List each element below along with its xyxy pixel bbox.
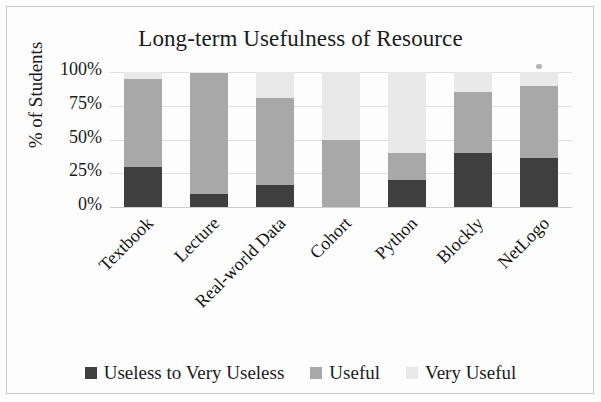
y-axis-tick-label: 100% <box>60 59 102 80</box>
legend-label: Useless to Very Useless <box>104 362 285 384</box>
bar-segment[interactable] <box>256 72 294 98</box>
bar-slot <box>308 72 374 207</box>
stacked-bar[interactable] <box>124 72 162 207</box>
y-axis-tick-label: 25% <box>69 161 102 182</box>
bar-segment[interactable] <box>520 72 558 86</box>
x-axis-tick-label: Cohort <box>306 213 356 263</box>
bar-segment[interactable] <box>388 180 426 207</box>
stacked-bar[interactable] <box>520 72 558 207</box>
chart-title: Long-term Usefulness of Resource <box>0 26 601 52</box>
legend-item[interactable]: Useless to Very Useless <box>85 362 285 384</box>
bar-segment[interactable] <box>190 194 228 208</box>
bar-segment[interactable] <box>322 140 360 208</box>
x-axis-tick-label: Lecture <box>170 213 224 267</box>
x-axis-label-slot: Cohort <box>308 207 374 317</box>
chart-figure: Long-term Usefulness of Resource % of St… <box>0 0 601 402</box>
bar-segment[interactable] <box>454 153 492 207</box>
y-axis-tick-label: 0% <box>78 194 102 215</box>
stacked-bar[interactable] <box>256 72 294 207</box>
scan-artifact-speck <box>536 64 542 69</box>
bar-slot <box>176 72 242 207</box>
x-axis-label-slot: Blockly <box>440 207 506 317</box>
bar-segment[interactable] <box>520 158 558 207</box>
x-axis-tick-label: Python <box>371 213 422 264</box>
bar-segment[interactable] <box>520 86 558 159</box>
bar-slot <box>440 72 506 207</box>
bar-slot <box>242 72 308 207</box>
bar-segment[interactable] <box>256 185 294 207</box>
bar-group <box>110 72 572 207</box>
x-axis-label-slot: NetLogo <box>506 207 572 317</box>
stacked-bar[interactable] <box>190 72 228 207</box>
x-axis-label-slot: Textbook <box>110 207 176 317</box>
bar-segment[interactable] <box>124 79 162 167</box>
bar-segment[interactable] <box>322 72 360 140</box>
bar-segment[interactable] <box>190 73 228 193</box>
legend-item[interactable]: Very Useful <box>406 362 516 384</box>
x-axis-label-slot: Real-world Data <box>242 207 308 317</box>
bar-segment[interactable] <box>388 153 426 180</box>
legend-item[interactable]: Useful <box>310 362 380 384</box>
bar-slot <box>110 72 176 207</box>
plot-area <box>110 72 572 207</box>
bar-segment[interactable] <box>454 92 492 153</box>
chart-legend: Useless to Very UselessUsefulVery Useful <box>0 362 601 384</box>
bar-segment[interactable] <box>124 167 162 208</box>
bar-segment[interactable] <box>256 98 294 186</box>
bar-segment[interactable] <box>124 72 162 79</box>
x-axis-tick-label: Textbook <box>95 213 158 276</box>
x-axis-tick-labels: TextbookLectureReal-world DataCohortPyth… <box>110 207 572 317</box>
bar-segment[interactable] <box>454 72 492 92</box>
x-axis-tick-label: Blockly <box>433 213 488 268</box>
stacked-bar[interactable] <box>388 72 426 207</box>
y-axis-tick-label: 50% <box>69 127 102 148</box>
bar-slot <box>374 72 440 207</box>
y-axis-tick-labels: 100%75%50%25%0% <box>44 72 102 207</box>
bar-segment[interactable] <box>388 72 426 153</box>
legend-swatch-icon <box>406 367 418 379</box>
legend-swatch-icon <box>85 367 97 379</box>
stacked-bar[interactable] <box>322 72 360 207</box>
bar-slot <box>506 72 572 207</box>
legend-label: Very Useful <box>425 362 516 384</box>
legend-swatch-icon <box>310 367 322 379</box>
legend-label: Useful <box>329 362 380 384</box>
stacked-bar[interactable] <box>454 72 492 207</box>
y-axis-tick-label: 75% <box>69 93 102 114</box>
x-axis-label-slot: Python <box>374 207 440 317</box>
